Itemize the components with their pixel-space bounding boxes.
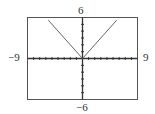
graph-window (0, 0, 155, 114)
